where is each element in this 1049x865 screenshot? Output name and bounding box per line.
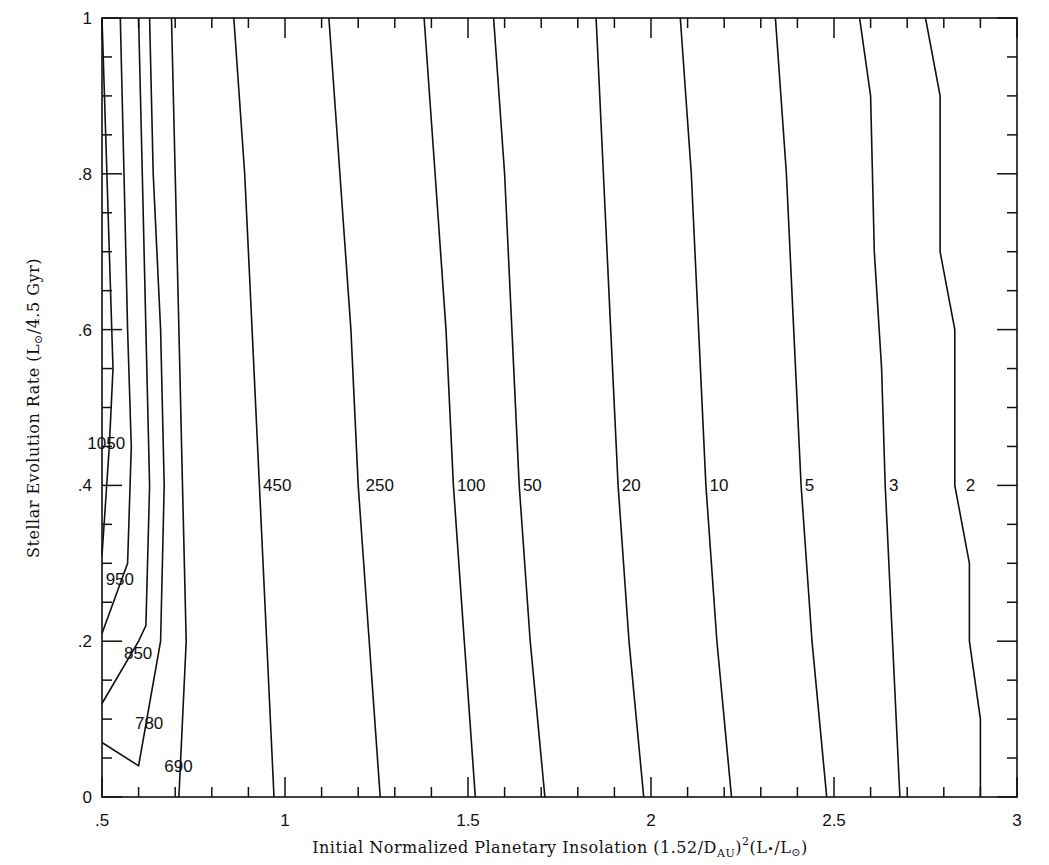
contour-line-50 — [494, 18, 545, 797]
y-tick-label: 0 — [83, 788, 92, 807]
contour-label: 950 — [106, 570, 134, 589]
x-tick-label: 2 — [646, 811, 655, 830]
plot-frame — [102, 18, 1017, 797]
contour-labels: 1050950850780690450250100502010532 — [87, 434, 975, 776]
tick-labels: .511.522.530.2.4.6.81 — [78, 9, 1022, 830]
contour-line-100 — [424, 18, 475, 797]
contour-label: 690 — [164, 757, 192, 776]
contour-line-450 — [234, 18, 274, 797]
contour-line-690 — [172, 18, 187, 797]
contour-label: 450 — [263, 476, 291, 495]
contour-label: 1050 — [87, 434, 125, 453]
contour-label: 10 — [710, 476, 729, 495]
contour-label: 50 — [523, 476, 542, 495]
y-axis-title: Stellar Evolution Rate (L⊙/4.5 Gyr) — [24, 258, 45, 558]
contour-lines — [102, 18, 980, 797]
contour-line-5 — [775, 18, 826, 797]
contour-label: 3 — [889, 476, 898, 495]
contour-line-2 — [926, 18, 981, 797]
contour-line-250 — [329, 18, 380, 797]
x-tick-label: 1.5 — [456, 811, 480, 830]
x-tick-label: 2.5 — [822, 811, 846, 830]
x-tick-label: 3 — [1012, 811, 1021, 830]
contour-line-850 — [102, 18, 150, 704]
contour-line-1050 — [102, 18, 113, 556]
axis-ticks — [102, 18, 1017, 797]
x-tick-label: .5 — [95, 811, 109, 830]
contour-label: 5 — [805, 476, 814, 495]
contour-line-950 — [102, 18, 131, 633]
y-tick-label: 1 — [83, 9, 92, 28]
contour-line-10 — [680, 18, 731, 797]
contour-chart: .511.522.530.2.4.6.81 105095085078069045… — [0, 0, 1049, 865]
contour-line-3 — [860, 18, 900, 797]
y-tick-label: .4 — [78, 476, 92, 495]
y-tick-label: .2 — [78, 632, 92, 651]
y-tick-label: .8 — [78, 165, 92, 184]
contour-label: 850 — [124, 644, 152, 663]
contour-label: 2 — [966, 476, 975, 495]
contour-label: 250 — [366, 476, 394, 495]
y-tick-label: .6 — [78, 321, 92, 340]
x-axis-title: Initial Normalized Planetary Insolation … — [312, 835, 808, 860]
contour-label: 100 — [457, 476, 485, 495]
contour-label: 20 — [622, 476, 641, 495]
x-tick-label: 1 — [280, 811, 289, 830]
contour-line-20 — [596, 18, 644, 797]
contour-label: 780 — [135, 714, 163, 733]
